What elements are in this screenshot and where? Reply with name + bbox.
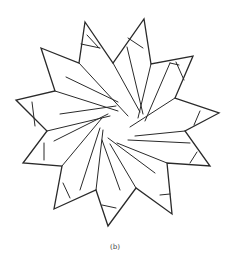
dissection-line <box>176 62 184 80</box>
dissection-line <box>55 91 118 111</box>
dissection-line <box>102 205 116 208</box>
dissection-line <box>66 77 118 102</box>
dissection-line <box>102 140 120 190</box>
dissection-line <box>96 130 103 190</box>
star-outline <box>16 19 219 226</box>
dissection-line <box>190 152 197 163</box>
dissection-line <box>128 140 190 143</box>
dissection-line <box>110 144 136 188</box>
dissection-line <box>117 143 167 163</box>
star-dissection-figure <box>0 0 230 240</box>
figure-caption: (b) <box>0 243 230 251</box>
dissection-line <box>160 194 170 195</box>
dissection-line <box>128 38 143 48</box>
dissection-line <box>32 102 35 126</box>
dissection-lines <box>32 35 200 208</box>
dissection-line <box>63 183 70 198</box>
dissection-line <box>138 64 151 118</box>
dissection-line <box>135 131 185 136</box>
